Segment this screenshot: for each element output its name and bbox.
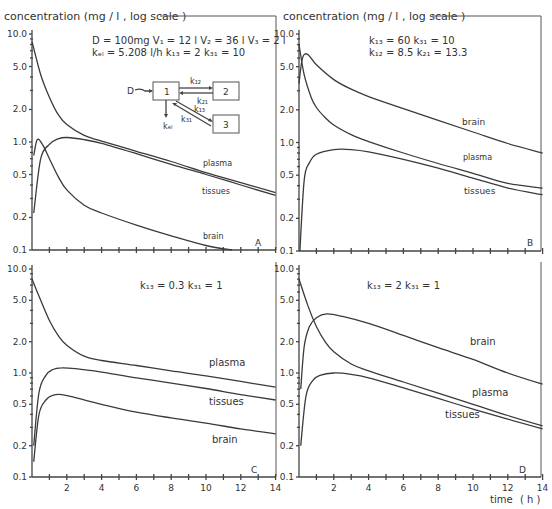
panel-a-letter: A [255,238,262,248]
arrowhead-icon [209,86,213,90]
compartment-diagram: D 1 2 3 k₁₂ k₂₁ k₁₃ k₃₁ kₑₗ [127,77,239,133]
y-tick-label: 0.1 [13,472,27,482]
x-axis-title: time [490,494,513,505]
y-tick-label: 10.0 [274,264,294,274]
y-tick-label: 5.0 [13,62,28,72]
panel-d-label-tissues: tissues [445,409,480,420]
y-tick-label: 0.1 [280,472,294,482]
panel-b-params-line2: k₁₂ = 8.5 k₂₁ = 13.3 [369,47,467,58]
y-axis-title-left: concentration (mg / l , log scale ) [4,10,186,23]
panel-a-params-line1: D = 100mg V₁ = 12 l V₂ = 36 l V₃ = 2 l [92,35,286,46]
arrowhead-icon [179,91,183,95]
curve-tissues [301,373,543,446]
y-tick-label: 2.0 [280,105,295,115]
panel-a-label-plasma: plasma [203,159,232,168]
panel-c: 10.05.02.01.00.50.20.12468101214 [7,264,282,493]
compartment-1-label: 1 [164,87,170,97]
x-tick-label: 12 [502,483,513,493]
y-tick-label: 1.0 [280,368,295,378]
y-tick-label: 0.5 [280,170,294,180]
y-tick-label: 0.2 [280,441,294,451]
panel-c-letter: C [251,465,257,475]
panel-b: 10.05.02.01.00.50.20.1 [274,29,543,256]
x-tick-label: 14 [537,483,549,493]
k13-label: k₁₃ [194,105,205,114]
y-tick-label: 0.1 [13,245,27,255]
x-tick-label: 10 [200,483,212,493]
panel-d-label-brain: brain [470,336,496,347]
panel-c-label-plasma: plasma [209,357,245,368]
x-tick-label: 10 [467,483,479,493]
x-tick-label: 4 [99,483,105,493]
compartment-2-label: 2 [223,87,229,97]
panel-c-params: k₁₃ = 0.3 k₃₁ = 1 [140,280,223,291]
panel-b-params-line1: k₁₃ = 60 k₃₁ = 10 [369,35,455,46]
y-tick-label: 5.0 [13,295,28,305]
panel-c-label-brain: brain [212,434,238,445]
y-tick-label: 5.0 [280,295,295,305]
curve-plasma [299,279,543,426]
k31-label: k₃₁ [181,115,192,124]
y-tick-label: 0.2 [13,441,27,451]
y-tick-label: 5.0 [280,62,295,72]
y-tick-label: 0.5 [13,399,27,409]
y-tick-label: 0.5 [13,170,27,180]
curve-plasma [32,279,276,387]
x-tick-label: 6 [401,483,407,493]
y-tick-label: 0.2 [280,213,294,223]
curve-brain [301,314,543,389]
panel-a-params-line2: kₑₗ = 5.208 l/h k₁₃ = 2 k₃₁ = 10 [92,47,245,58]
compartment-3-label: 3 [223,120,229,130]
arrowhead-icon [149,89,153,93]
panel-d-params: k₁₃ = 2 k₃₁ = 1 [367,280,440,291]
arrowhead-icon [208,118,213,122]
x-tick-label: 14 [270,483,282,493]
x-tick-label: 8 [168,483,174,493]
y-tick-label: 0.5 [280,399,294,409]
y-tick-label: 0.1 [280,246,294,256]
curve-plasma [299,45,543,189]
x-tick-label: 6 [134,483,140,493]
panel-a: 10.05.02.01.00.50.20.1 [7,29,276,255]
x-tick-label: 12 [235,483,246,493]
dose-label: D [127,86,134,96]
curve-tissues [34,137,276,213]
kel-label: kₑₗ [163,122,172,131]
arrowhead-icon [164,114,168,118]
curve-tissues [300,149,543,251]
y-tick-label: 1.0 [13,137,28,147]
y-tick-label: 10.0 [7,264,27,274]
y-tick-label: 2.0 [280,337,295,347]
figure-canvas: concentration (mg / l , log scale ) conc… [0,0,552,509]
panel-d-letter: D [519,465,526,475]
x-tick-label: 2 [64,483,70,493]
x-tick-label: 2 [331,483,337,493]
y-tick-label: 2.0 [13,104,28,114]
y-tick-label: 1.0 [13,368,28,378]
x-tick-label: 4 [366,483,372,493]
panel-b-letter: B [527,238,533,248]
panel-d: 10.05.02.01.00.50.20.12468101214 [274,264,549,493]
panel-a-label-brain: brain [203,232,224,241]
curve-brain [299,54,543,153]
arrow-k31-icon [174,104,211,126]
y-tick-label: 1.0 [280,138,295,148]
x-tick-label: 8 [435,483,441,493]
y-tick-label: 10.0 [7,29,27,39]
panel-b-label-plasma: plasma [463,153,492,162]
panel-b-label-brain: brain [462,117,485,127]
panel-c-label-tissues: tissues [209,396,244,407]
y-tick-label: 0.2 [13,212,27,222]
y-tick-label: 2.0 [13,337,28,347]
panel-d-label-plasma: plasma [472,387,508,398]
panel-a-label-tissues: tissues [202,187,230,196]
panel-b-label-tissues: tissues [464,186,496,196]
k12-label: k₁₂ [190,77,201,86]
x-axis-unit: ( h ) [520,494,541,505]
